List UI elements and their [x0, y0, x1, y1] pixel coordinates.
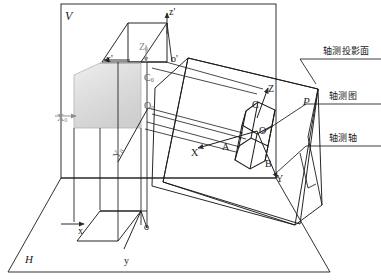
axonometric-plane-P-outline [152, 58, 322, 225]
o0-label: O0 [144, 101, 154, 112]
annotation-axonometric-drawing: 轴测图 [329, 92, 357, 101]
x0-subscript: 0 [64, 116, 67, 123]
top-view-y-label: y [124, 256, 129, 266]
vertex-label-A: A [222, 142, 229, 152]
z0-subscript: 0 [145, 45, 148, 52]
c0-letter: C [144, 72, 151, 83]
annotation-leaders [262, 59, 381, 174]
figure-canvas: V H P z' x' o' x o y Z0 X0 Y0 O0 C0 Z X … [0, 0, 381, 280]
c0-subscript: 0 [151, 76, 154, 83]
vertex-label-B: B [265, 159, 272, 169]
plane-label-V: V [65, 10, 72, 22]
plane-label-P: P [303, 96, 310, 107]
axonometric-x-label: X [191, 148, 198, 158]
c0-label: C0 [144, 73, 154, 84]
plane-label-H: H [25, 254, 33, 265]
shaded-front-face [74, 63, 141, 128]
z0-label: Z0 [139, 42, 148, 53]
horizontal-plane-H [8, 178, 330, 272]
axonometric-origin-label: O [259, 126, 266, 136]
front-view-x-label: x' [106, 54, 113, 64]
x0-label: X0 [57, 113, 67, 124]
projector-rays [140, 62, 263, 152]
front-view-origin-label: o' [171, 54, 178, 64]
axonometric-y-label: Y [276, 174, 283, 184]
top-view-x-label: x [78, 226, 83, 236]
vertex-label-C: C [252, 100, 259, 110]
annotation-axonometric-projection-plane: 轴测投影面 [323, 47, 370, 56]
technical-drawing-svg [0, 0, 381, 280]
axonometric-z-label: Z [268, 84, 274, 94]
front-view-z-label: z' [169, 7, 175, 17]
top-view-origin-label: o [144, 222, 149, 232]
annotation-axonometric-axes: 轴测轴 [329, 134, 357, 143]
o0-subscript: 0 [151, 104, 154, 111]
